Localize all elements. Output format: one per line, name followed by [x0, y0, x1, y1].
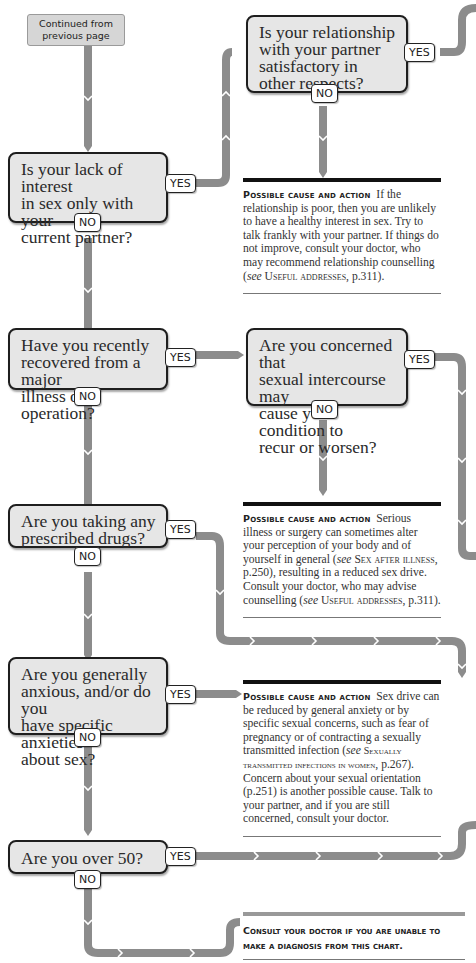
- q1a-no-button[interactable]: NO: [311, 84, 338, 103]
- q5-no-button[interactable]: NO: [74, 870, 101, 889]
- cause-body: If the relationship is poor, then you ar…: [243, 188, 439, 283]
- q2-yes-button[interactable]: YES: [165, 348, 196, 367]
- q3-line-2: prescribed drugs?: [21, 530, 156, 547]
- q4-yes-button[interactable]: YES: [165, 685, 196, 704]
- connector-q1-yes: [196, 52, 232, 183]
- cause-heading: Possible cause and action: [243, 691, 370, 702]
- q2a-no-button[interactable]: NO: [311, 400, 338, 419]
- q2-no-button[interactable]: NO: [74, 387, 101, 406]
- final-line-2: make a diagnosis from this chart.: [243, 938, 465, 953]
- possible-cause-relationship: Possible cause and action If the relatio…: [243, 178, 441, 294]
- q1-no-button[interactable]: NO: [74, 213, 101, 232]
- continued-from-previous-page: Continued from previous page: [27, 14, 125, 46]
- connector-q1a-yes: [440, 8, 476, 52]
- q4-line-4: about sex?: [21, 751, 156, 768]
- cause-body-end: , p.311).: [346, 270, 384, 283]
- reference-sex-after-illness[interactable]: Sex after illness: [354, 553, 434, 566]
- q4-no-button[interactable]: NO: [74, 728, 101, 747]
- q3-no-button[interactable]: NO: [74, 547, 101, 566]
- cause-heading: Possible cause and action: [243, 513, 370, 524]
- cause-top-rule: [243, 502, 441, 506]
- cause-bottom-rule: [243, 617, 441, 618]
- reference-useful-addresses[interactable]: Useful addresses: [265, 270, 347, 283]
- q1-line-1: Is your lack of interest: [21, 161, 156, 195]
- q2a-line-4: recur or worsen?: [259, 439, 396, 456]
- question-over-50: Are you over 50?: [8, 840, 168, 874]
- question-relationship-satisfactory: Is your relationship with your partner s…: [246, 15, 408, 93]
- cause-text: Possible cause and action Serious illnes…: [243, 512, 441, 607]
- question-recovered-illness: Have you recently recovered from a major…: [8, 328, 168, 390]
- see-label: see: [303, 594, 318, 607]
- q1a-yes-button[interactable]: YES: [404, 43, 435, 62]
- see-label: see: [346, 744, 361, 757]
- cause-text: Possible cause and action Sex drive can …: [243, 690, 441, 826]
- cause-bottom-rule: [243, 293, 441, 294]
- question-generally-anxious: Are you generally anxious, and/or do you…: [8, 657, 168, 735]
- final-bottom-rule: [243, 959, 465, 960]
- possible-cause-illness: Possible cause and action Serious illnes…: [243, 502, 441, 618]
- start-line-1: Continued from: [28, 18, 124, 30]
- consult-doctor-final: Consult your doctor if you are unable to…: [243, 912, 465, 960]
- start-line-2: previous page: [28, 30, 124, 42]
- possible-cause-anxiety: Possible cause and action Sex drive can …: [243, 680, 441, 837]
- q2a-line-1: Are you concerned that: [259, 337, 396, 371]
- final-line-1: Consult your doctor if you are unable to: [243, 923, 465, 938]
- q4-line-2: anxious, and/or do you: [21, 683, 156, 717]
- see-label: see: [247, 270, 262, 283]
- see-label: see: [337, 553, 352, 566]
- cause-top-rule: [243, 680, 441, 684]
- cause-heading: Possible cause and action: [243, 189, 370, 200]
- question-concerned-intercourse: Are you concerned that sexual intercours…: [246, 328, 408, 406]
- q1-yes-button[interactable]: YES: [165, 174, 196, 193]
- connector-q5-no: [88, 885, 240, 953]
- q5-line-1: Are you over 50?: [21, 850, 156, 867]
- q2-line-2: recovered from a major: [21, 354, 156, 388]
- cause-body-end: , p.311).: [402, 594, 440, 607]
- q5-yes-button[interactable]: YES: [165, 847, 196, 866]
- question-prescribed-drugs: Are you taking any prescribed drugs?: [8, 504, 168, 548]
- q3-yes-button[interactable]: YES: [165, 520, 196, 539]
- cause-bottom-rule: [243, 836, 441, 837]
- final-top-rule: [243, 912, 465, 916]
- q2a-yes-button[interactable]: YES: [404, 350, 435, 369]
- cause-text: Possible cause and action If the relatio…: [243, 188, 441, 283]
- cause-top-rule: [243, 178, 441, 182]
- reference-useful-addresses[interactable]: Useful addresses: [321, 594, 403, 607]
